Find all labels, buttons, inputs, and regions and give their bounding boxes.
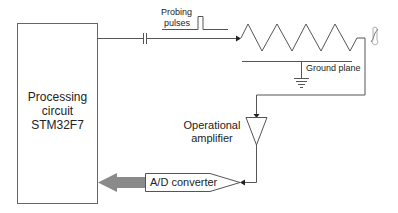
processing-label-line1: Processing: [17, 90, 98, 104]
ground-symbol-icon: [294, 79, 309, 88]
wire-sensor-to-opamp: [257, 95, 366, 115]
processing-circuit-label: Processing circuit STM32F7: [17, 90, 98, 132]
arrowhead-icon: [236, 36, 241, 42]
adc-label: A/D converter: [150, 176, 217, 189]
probing-pulses-label: Probing pulses: [161, 7, 192, 29]
wire-opamp-to-adc: [242, 145, 257, 183]
data-flow-arrow-icon: [98, 173, 145, 192]
capacitor-icon: [144, 33, 147, 44]
temperature-sensor-icon: [371, 27, 378, 45]
op-amp-label-line2: amplifier: [178, 132, 246, 145]
op-amp-label-line1: Operational: [178, 119, 246, 132]
processing-label-line3: STM32F7: [17, 118, 98, 132]
probing-label-line2: pulses: [161, 18, 192, 29]
ground-plane-label: Ground plane: [306, 63, 361, 74]
op-amp-label: Operational amplifier: [178, 119, 246, 145]
processing-label-line2: circuit: [17, 104, 98, 118]
op-amp-symbol-icon: [246, 118, 267, 146]
probing-label-line1: Probing: [161, 7, 192, 18]
